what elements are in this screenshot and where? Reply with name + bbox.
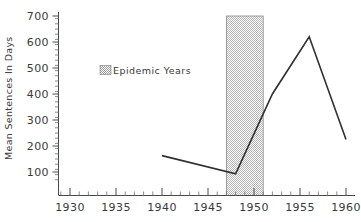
y-tick-label: 600 [27, 36, 49, 49]
y-tick-label: 100 [27, 166, 49, 179]
x-tick-label: 1960 [331, 201, 361, 214]
chart-background [0, 0, 361, 222]
y-axis-label-text: Mean Sentences In Days [3, 36, 14, 160]
x-tick-label: 1935 [101, 201, 131, 214]
x-tick-label: 1940 [147, 201, 177, 214]
epidemic-years-band [226, 16, 263, 196]
y-tick-label: 200 [27, 140, 49, 153]
legend-label-epidemic-years: Epidemic Years [113, 65, 191, 76]
legend: Epidemic Years [100, 65, 191, 76]
x-tick-label: 1930 [55, 201, 85, 214]
y-tick-label: 400 [27, 88, 49, 101]
x-tick-label: 1955 [285, 201, 315, 214]
y-axis-label: Mean Sentences In Days [3, 36, 14, 160]
x-tick-label: 1945 [193, 201, 223, 214]
x-tick-label: 1950 [239, 201, 269, 214]
y-tick-label: 700 [27, 10, 49, 23]
y-tick-label: 500 [27, 62, 49, 75]
chart-container: 100200300400500600700 193019351940194519… [0, 0, 361, 222]
y-tick-label: 300 [27, 114, 49, 127]
legend-swatch-epidemic-years [100, 66, 111, 75]
line-chart: 100200300400500600700 193019351940194519… [0, 0, 361, 222]
